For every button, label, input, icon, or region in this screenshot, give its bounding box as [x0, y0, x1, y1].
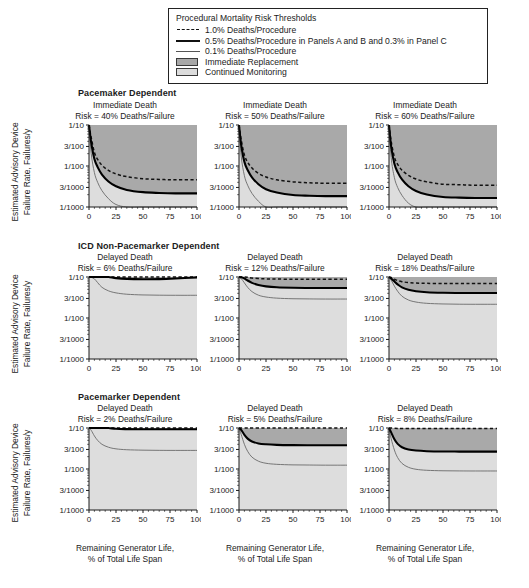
y-tick-label: 3/1000 — [210, 486, 235, 495]
y-tick-label: 3/100 — [214, 142, 235, 151]
legend-item-continued-monitoring: Continued Monitoring — [175, 67, 481, 78]
legend-label-05pct: 0.5% Deaths/Procedure in Panels A and B … — [205, 36, 447, 47]
x-axis-title-c2-line2: % of Total Life Span — [199, 554, 351, 565]
panel-a3-title-line1: Immediate Death — [349, 100, 501, 111]
x-tick-label: 25 — [112, 515, 121, 524]
panel-b3-plot: 1/103/1001/1003/10001/10000255075100 — [349, 273, 501, 381]
x-tick-label: 50 — [139, 364, 148, 373]
y-tick-label: 1/10 — [368, 273, 384, 282]
y-axis-title-row-a-line1: Estimated Advisory Device — [10, 112, 20, 232]
panel-c1-title-line2: Risk = 2% Deaths/Failure — [49, 414, 201, 425]
panel-c3-title-line2: Risk = 8% Deaths/Failure — [349, 414, 501, 425]
legend-title: Procedural Mortality Risk Thresholds — [176, 13, 481, 24]
y-tick-label: 1/10 — [68, 273, 84, 282]
x-tick-label: 0 — [387, 515, 392, 524]
y-tick-label: 1/1000 — [360, 355, 385, 364]
x-tick-label: 25 — [412, 212, 421, 221]
y-axis-title-row-c-line2: Failure Rate, Failures/y — [22, 413, 32, 533]
y-tick-label: 1/10 — [68, 424, 84, 433]
y-tick-label: 1/1000 — [60, 355, 85, 364]
y-axis-title-row-b-line2: Failure Rate, Failures/y — [22, 264, 32, 384]
x-axis-title-c3-line1: Remaining Generator Life, — [349, 543, 501, 554]
legend-item-01pct: 0.1% Deaths/Procedure — [175, 46, 481, 57]
panel-a2-title-line2: Risk = 50% Deaths/Failure — [199, 111, 351, 122]
x-axis-title-c1-line1: Remaining Generator Life, — [49, 543, 201, 554]
x-tick-label: 25 — [262, 515, 271, 524]
legend-item-immediate-replacement: Immediate Replacement — [175, 57, 481, 68]
y-tick-label: 1/1000 — [60, 203, 85, 212]
y-tick-label: 1/1000 — [360, 506, 385, 515]
y-axis-title-row-a-line2: Failure Rate, Failures/y — [22, 112, 32, 232]
x-tick-label: 100 — [490, 212, 501, 221]
panel-c2-title-line1: Delayed Death — [199, 403, 351, 414]
y-tick-label: 3/100 — [214, 294, 235, 303]
panel-c1: Delayed Death Risk = 2% Deaths/Failure 1… — [49, 403, 201, 535]
y-tick-label: 3/1000 — [60, 486, 85, 495]
x-tick-label: 100 — [490, 364, 501, 373]
y-tick-label: 1/10 — [218, 121, 234, 130]
y-axis-title-row-b-line1: Estimated Advisory Device — [10, 264, 20, 384]
panel-a1-title-line2: Risk = 40% Deaths/Failure — [49, 111, 201, 122]
panel-c3: Delayed Death Risk = 8% Deaths/Failure 1… — [349, 403, 501, 535]
panel-a2-plot: 1/103/1001/1003/10001/10000255075100 — [199, 121, 351, 229]
x-tick-label: 75 — [316, 364, 325, 373]
y-tick-label: 3/100 — [64, 294, 85, 303]
continued-monitoring-region — [89, 428, 197, 510]
y-tick-label: 3/100 — [64, 142, 85, 151]
x-tick-label: 25 — [112, 212, 121, 221]
panel-b1-plot: 1/103/1001/1003/10001/10000255075100 — [49, 273, 201, 381]
panel-b3: Delayed Death Risk = 18% Deaths/Failure … — [349, 252, 501, 384]
x-tick-label: 100 — [490, 515, 501, 524]
x-tick-label: 50 — [289, 515, 298, 524]
x-tick-label: 0 — [387, 212, 392, 221]
y-tick-label: 1/10 — [218, 424, 234, 433]
legend-label-01pct: 0.1% Deaths/Procedure — [205, 46, 296, 57]
thin-solid-line-icon — [175, 46, 201, 56]
x-tick-label: 25 — [262, 364, 271, 373]
x-tick-label: 25 — [412, 364, 421, 373]
y-tick-label: 1/1000 — [210, 506, 235, 515]
x-tick-label: 50 — [289, 364, 298, 373]
y-tick-label: 1/1000 — [210, 203, 235, 212]
x-tick-label: 0 — [387, 364, 392, 373]
x-tick-label: 75 — [316, 515, 325, 524]
y-axis-title-row-c-line1: Estimated Advisory Device — [10, 413, 20, 533]
panel-a3-plot: 1/103/1001/1003/10001/10000255075100 — [349, 121, 501, 229]
panel-a3: Immediate Death Risk = 60% Deaths/Failur… — [349, 100, 501, 232]
panel-b2-plot: 1/103/1001/1003/10001/10000255075100 — [199, 273, 351, 381]
dashed-line-icon — [175, 25, 201, 35]
x-tick-label: 50 — [139, 212, 148, 221]
panel-c2-title-line2: Risk = 5% Deaths/Failure — [199, 414, 351, 425]
panel-c2: Delayed Death Risk = 5% Deaths/Failure 1… — [199, 403, 351, 535]
panel-c2-plot: 1/103/1001/1003/10001/10000255075100 — [199, 424, 351, 532]
x-tick-label: 25 — [412, 515, 421, 524]
legend-label-continued-monitoring: Continued Monitoring — [205, 67, 287, 78]
y-tick-label: 3/1000 — [360, 183, 385, 192]
panel-a2: Immediate Death Risk = 50% Deaths/Failur… — [199, 100, 351, 232]
x-tick-label: 50 — [289, 212, 298, 221]
panel-b2: Delayed Death Risk = 12% Deaths/Failure … — [199, 252, 351, 384]
y-tick-label: 3/1000 — [60, 183, 85, 192]
y-tick-label: 1/100 — [364, 465, 385, 474]
x-axis-title-c3-line2: % of Total Life Span — [349, 554, 501, 565]
panel-c1-title-line1: Delayed Death — [49, 403, 201, 414]
x-tick-label: 75 — [166, 212, 175, 221]
x-tick-label: 50 — [439, 515, 448, 524]
panel-b1-title-line2: Risk = 6% Deaths/Failure — [49, 263, 201, 274]
x-tick-label: 25 — [112, 364, 121, 373]
panel-b2-title-line1: Delayed Death — [199, 252, 351, 263]
panel-b1-title-line1: Delayed Death — [49, 252, 201, 263]
y-tick-label: 1/100 — [64, 314, 85, 323]
x-tick-label: 75 — [166, 515, 175, 524]
x-tick-label: 50 — [139, 515, 148, 524]
panel-b3-title-line1: Delayed Death — [349, 252, 501, 263]
x-tick-label: 0 — [87, 515, 92, 524]
row-header-panel-b: ICD Non-Pacemarker Dependent — [78, 241, 219, 251]
thick-solid-line-icon — [175, 36, 201, 46]
panel-b2-title-line2: Risk = 12% Deaths/Failure — [199, 263, 351, 274]
x-tick-label: 0 — [237, 212, 242, 221]
y-tick-label: 1/1000 — [60, 506, 85, 515]
y-tick-label: 1/10 — [218, 273, 234, 282]
x-tick-label: 75 — [316, 212, 325, 221]
panel-a1-plot: 1/103/1001/1003/10001/10000255075100 — [49, 121, 201, 229]
